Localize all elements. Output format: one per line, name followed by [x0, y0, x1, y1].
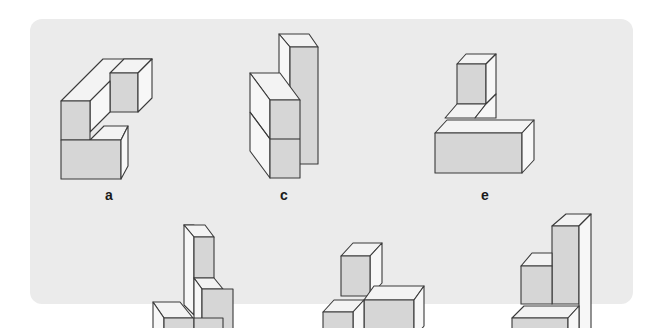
shape-label-c: c	[280, 187, 288, 203]
block-shape-b	[153, 225, 233, 328]
block-shape-e	[435, 54, 534, 173]
block-shape-d	[323, 243, 424, 328]
block-shape-a	[61, 59, 152, 179]
block-shape-f	[512, 214, 591, 328]
block-figures	[0, 0, 665, 328]
shape-label-e: e	[481, 187, 489, 203]
block-shape-c	[250, 34, 318, 178]
shape-label-a: a	[105, 187, 113, 203]
